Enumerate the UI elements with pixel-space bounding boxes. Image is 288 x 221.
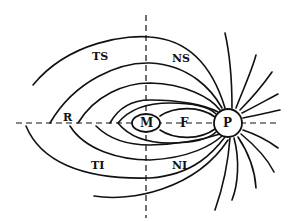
label-ns: NS bbox=[172, 52, 190, 65]
label-p: P bbox=[223, 116, 232, 130]
label-m: M bbox=[140, 116, 153, 130]
label-ti: TI bbox=[91, 159, 104, 172]
diagram-canvas: TS NS R M F P TI NI bbox=[0, 0, 288, 221]
label-ni: NI bbox=[172, 159, 187, 172]
label-ts: TS bbox=[92, 50, 108, 63]
label-r: R bbox=[63, 111, 73, 124]
field-line-diagram: TS NS R M F P TI NI bbox=[0, 0, 288, 221]
label-f: F bbox=[180, 116, 189, 130]
